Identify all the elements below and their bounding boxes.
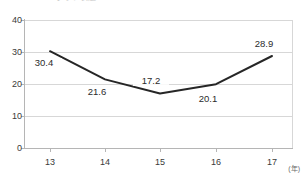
y-tick-label-30: 30 xyxy=(0,48,22,57)
y-tick-label-0: 0 xyxy=(0,144,22,153)
y-tick-label-40: 40 xyxy=(0,16,22,25)
data-label-17: 28.9 xyxy=(246,39,282,49)
x-tick-label-14: 14 xyxy=(90,158,120,167)
x-tick-label-17: 17 xyxy=(257,158,287,167)
x-axis-unit-label: (年) xyxy=(288,165,300,173)
y-tick-label-10: 10 xyxy=(0,112,22,121)
y-tick-label-20: 20 xyxy=(0,80,22,89)
data-label-14: 21.6 xyxy=(79,87,115,97)
x-tick-label-15: 15 xyxy=(145,158,175,167)
data-label-13: 30.4 xyxy=(26,58,62,68)
line-chart: グラフ表題 xyxy=(0,0,302,175)
data-label-16: 20.1 xyxy=(190,94,226,104)
x-tick-label-16: 16 xyxy=(201,158,231,167)
data-label-15: 17.2 xyxy=(133,76,169,86)
plot-area xyxy=(0,0,302,175)
x-tick-label-13: 13 xyxy=(35,158,65,167)
gridlines xyxy=(24,21,293,117)
